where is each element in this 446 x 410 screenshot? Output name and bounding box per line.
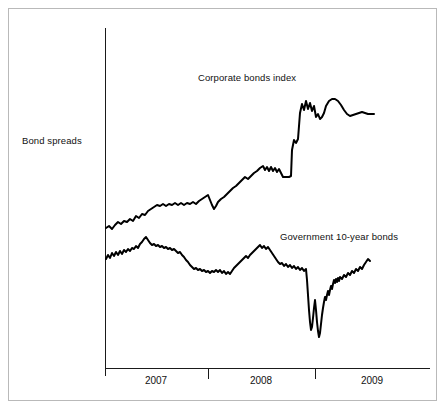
- chart-figure: Bond spreads Corporate bonds index Gover…: [0, 0, 446, 410]
- series-label-government-10-year-bonds: Government 10-year bonds: [280, 231, 398, 242]
- series-corporate-bonds-index: [106, 99, 374, 229]
- series-government-10-year-bonds: [106, 237, 370, 337]
- series-label-corporate-bonds-index: Corporate bonds index: [198, 72, 296, 83]
- x-tick-label-2008: 2008: [250, 375, 272, 386]
- x-tick-label-2009: 2009: [361, 375, 383, 386]
- x-tick-label-2007: 2007: [145, 375, 167, 386]
- chart-plot-area: [0, 0, 446, 410]
- y-axis-label: Bond spreads: [22, 135, 82, 146]
